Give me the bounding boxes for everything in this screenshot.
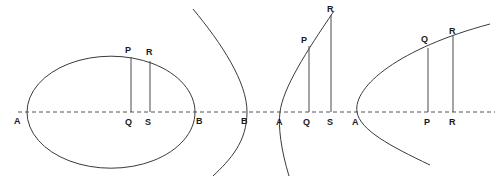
point-label-a: A [14, 116, 21, 126]
point-label-b: B [196, 116, 203, 126]
point-label-r: R [146, 47, 153, 57]
point-label-p: P [301, 35, 307, 45]
point-label-r: R [327, 4, 334, 14]
point-label-p: P [424, 117, 430, 127]
point-label-p: P [125, 45, 131, 55]
conic-figure-board: ABPQRSBAQPSRAPQRR [0, 0, 501, 181]
conic-diagram: ABPQRSBAQPSRAPQRR [0, 0, 501, 181]
point-label-q: Q [303, 117, 310, 127]
point-label-q: Q [421, 34, 428, 44]
point-label-r: R [449, 117, 456, 127]
point-label-b: B [241, 116, 248, 126]
diagram-background [0, 0, 501, 181]
point-label-q: Q [125, 117, 132, 127]
point-label-s: S [327, 117, 333, 127]
point-label-a: A [352, 117, 359, 127]
point-label-s: S [145, 117, 151, 127]
point-label-a: A [276, 117, 283, 127]
point-label-r2: R [449, 26, 456, 36]
